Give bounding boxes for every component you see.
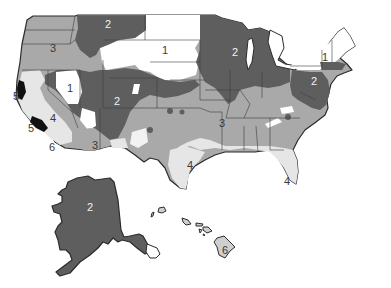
zone-label-ca-islands: 6 xyxy=(49,142,55,153)
zone-label-central: 3 xyxy=(219,118,225,129)
zone-label-ca-coast-south: 5 xyxy=(28,123,34,134)
us-zone-map xyxy=(0,0,391,288)
zone-label-montana: 2 xyxy=(105,19,111,30)
alaska-panhandle-light xyxy=(146,244,160,258)
zone-label-california: 4 xyxy=(50,113,56,124)
zone-label-alaska: 2 xyxy=(87,202,93,213)
alaska-shape xyxy=(52,176,152,276)
hawaii-lanai xyxy=(199,229,202,233)
zone-label-mid-atlantic: 2 xyxy=(311,76,317,87)
zone-2-blob-1 xyxy=(167,108,173,114)
zone-label-ca-coast-north: 5 xyxy=(13,91,19,102)
hawaii-oahu xyxy=(182,218,191,225)
hawaii-kauai xyxy=(158,207,166,213)
zone-label-nevada: 1 xyxy=(67,83,73,94)
hawaii-kahoolawe xyxy=(203,234,205,236)
hawaii-molokai xyxy=(196,223,203,226)
zone-label-texas-coast: 4 xyxy=(187,160,193,171)
zone-2-blob-3 xyxy=(147,127,153,133)
zone-2-blob-nc xyxy=(285,114,291,120)
hawaii-maui xyxy=(203,227,212,233)
zone-label-florida: 4 xyxy=(284,176,290,187)
zone-label-hawaii: 6 xyxy=(222,245,228,256)
zone-label-colorado: 2 xyxy=(114,96,120,107)
zone-label-pnw: 3 xyxy=(50,43,56,54)
zone-label-arizona: 3 xyxy=(92,140,98,151)
zone-2-massachusetts xyxy=(320,62,346,70)
alaska xyxy=(52,176,160,276)
zone-label-dakotas: 1 xyxy=(162,45,168,56)
zone-2-blob-2 xyxy=(180,110,185,115)
zone-label-new-england: 1 xyxy=(322,52,328,63)
zone-label-wisconsin: 2 xyxy=(232,47,238,58)
hawaii-niihau xyxy=(151,212,154,217)
